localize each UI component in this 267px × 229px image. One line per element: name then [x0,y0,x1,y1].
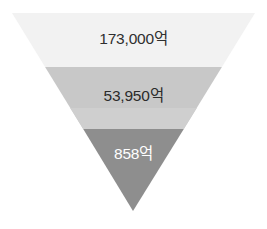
funnel-chart-svg [0,0,267,229]
funnel-segment-stage-1[interactable] [12,13,255,67]
funnel-segment-stage-2-highlight [70,108,197,129]
funnel-chart: 173,000억 53,950억 858억 [0,0,267,229]
